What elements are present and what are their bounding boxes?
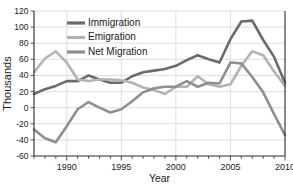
- y-tick-label: 60: [19, 54, 29, 64]
- y-tick-label: -60: [16, 151, 29, 161]
- y-tick-label: -20: [16, 119, 29, 129]
- x-axis-title: Year: [149, 172, 171, 184]
- y-tick-label: 80: [19, 38, 29, 48]
- y-tick-label: 100: [14, 22, 28, 32]
- series-line-net-migration: [34, 63, 285, 143]
- chart-canvas: -60-40-200204060801001201990199520002005…: [0, 0, 293, 194]
- axis-frame: [34, 11, 285, 156]
- y-tick-label: 40: [19, 70, 29, 80]
- y-axis-title: Thousands: [1, 56, 13, 111]
- x-tick-label: 2000: [166, 162, 186, 172]
- y-tick-label: 120: [14, 6, 28, 16]
- x-axis-ticks: 19901995200020052010: [34, 156, 293, 172]
- gridlines: [34, 11, 285, 156]
- legend-label-net-migration: Net Migration: [88, 46, 147, 57]
- legend: ImmigrationEmigrationNet Migration: [67, 17, 147, 57]
- y-tick-label: -40: [16, 135, 29, 145]
- y-tick-label: 0: [24, 103, 29, 113]
- x-tick-label: 2010: [275, 162, 293, 172]
- x-tick-label: 1990: [57, 162, 77, 172]
- legend-label-immigration: Immigration: [88, 17, 140, 28]
- y-tick-label: 20: [19, 87, 29, 97]
- y-axis-ticks: -60-40-20020406080100120: [14, 6, 34, 161]
- x-tick-label: 1995: [111, 162, 131, 172]
- x-tick-label: 2005: [220, 162, 240, 172]
- migration-line-chart: -60-40-200204060801001201990199520002005…: [0, 0, 293, 194]
- legend-label-emigration: Emigration: [88, 31, 136, 42]
